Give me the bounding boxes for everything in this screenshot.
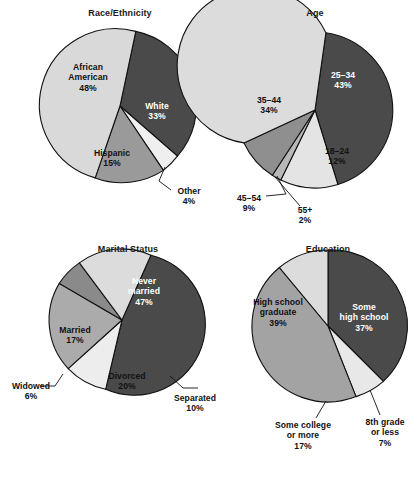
label-line-1: Never [132, 276, 156, 286]
pie-label-divorced: Divorced 20% [108, 371, 145, 392]
label-line-1: African [73, 62, 103, 72]
label-pct: 2% [298, 215, 313, 225]
label-line-1: 8th grade [365, 417, 404, 427]
label-line-2: or more [287, 431, 319, 441]
label-pct: 39% [253, 318, 303, 328]
label-pct: 17% [275, 441, 331, 451]
pie-label-age-35-44: 35–44 34% [257, 95, 281, 116]
chart-title-race-ethnicity: Race/Ethnicity [88, 8, 151, 18]
pie-chart-education: Education High school graduate 39% Some … [209, 240, 419, 484]
label-line-1: 35–44 [257, 95, 281, 105]
label-line-1: 45–54 [237, 193, 261, 203]
label-pct: 43% [331, 80, 355, 90]
label-pct: 47% [128, 297, 160, 307]
pie-label-some-college-or-more: Some college or more 17% [275, 420, 331, 451]
chart-title-marital-status: Marital Status [98, 244, 158, 254]
label-line-1: 55+ [298, 205, 313, 215]
label-pct: 20% [108, 381, 145, 391]
pie-label-hispanic: Hispanic 15% [94, 148, 130, 169]
pie-label-age-45-54: 45–54 9% [237, 193, 261, 214]
label-pct: 15% [94, 158, 130, 168]
label-line-1: Married [59, 325, 90, 335]
label-line-1: Some college [275, 420, 331, 430]
label-line-2: high school [340, 313, 389, 323]
label-line-1: 18–24 [325, 146, 349, 156]
label-pct: 4% [177, 196, 200, 206]
label-line-1: Hispanic [94, 148, 130, 158]
label-line-1: 25–34 [331, 70, 355, 80]
pie-chart-age: Age 25–34 43% 35–44 34% 18–24 12% [209, 0, 419, 240]
label-line-1: White [145, 101, 169, 111]
pie-label-widowed: Widowed 6% [12, 381, 50, 402]
pie-label-married: Married 17% [59, 325, 90, 346]
label-pct: 33% [145, 111, 169, 121]
pie-chart-marital-status: Marital Status Never married 47% Married… [0, 240, 210, 484]
pie-label-age-25-34: 25–34 43% [331, 70, 355, 91]
chart-title-education: Education [306, 244, 350, 254]
leader-line-some-college [316, 401, 326, 418]
pie-label-age-18-24: 18–24 12% [325, 146, 349, 167]
pie-svg-marital-status [0, 240, 210, 484]
label-pct: 37% [340, 323, 389, 333]
label-pct: 9% [237, 203, 261, 213]
label-pct: 48% [68, 83, 108, 93]
pie-label-some-high-school: Some high school 37% [340, 302, 389, 333]
label-pct: 34% [257, 105, 281, 115]
label-line-1: Some [352, 302, 376, 312]
pie-label-8th-grade-or-less: 8th grade or less 7% [365, 417, 404, 448]
pie-label-age-55-plus: 55+ 2% [298, 205, 313, 226]
label-line-1: High school [253, 297, 303, 307]
pie-label-white: White 33% [145, 101, 169, 122]
label-line-2: American [68, 73, 108, 83]
leader-line-8th-grade [370, 390, 380, 415]
label-line-1: Widowed [12, 381, 50, 391]
label-pct: 12% [325, 156, 349, 166]
label-pct: 6% [12, 391, 50, 401]
label-line-2: graduate [260, 308, 297, 318]
label-line-2: married [128, 287, 160, 297]
pie-chart-race-ethnicity: Race/Ethnicity African American 48% Whit… [0, 0, 210, 240]
pie-label-high-school-graduate: High school graduate 39% [253, 297, 303, 328]
pie-label-other: Other 4% [177, 186, 200, 207]
label-pct: 7% [365, 438, 404, 448]
label-line-1: Divorced [108, 371, 145, 381]
label-line-1: Other [177, 186, 200, 196]
label-line-2: or less [371, 428, 399, 438]
figure-sheet: Race/Ethnicity African American 48% Whit… [0, 0, 419, 484]
pie-label-never-married: Never married 47% [128, 276, 160, 307]
label-pct: 17% [59, 335, 90, 345]
pie-label-african-american: African American 48% [68, 62, 108, 93]
chart-title-age: Age [306, 8, 323, 18]
